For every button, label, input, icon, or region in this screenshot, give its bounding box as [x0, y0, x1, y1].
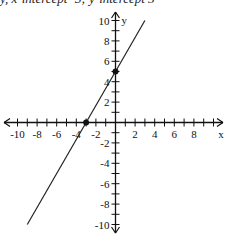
x-tick-label: 2	[132, 128, 138, 140]
y-tick-label: -2	[100, 137, 109, 149]
y-tick-label: -4	[100, 157, 110, 169]
y-axis-label: y	[122, 14, 128, 26]
x-tick-label: -10	[10, 128, 25, 140]
x-intercept-point	[83, 120, 89, 126]
y-tick-label: 6	[104, 55, 110, 67]
x-axis-label: x	[218, 128, 224, 140]
y-tick-label: -10	[95, 219, 110, 231]
y-tick-label: -8	[100, 198, 110, 210]
x-tick-label: 8	[191, 128, 197, 140]
y-intercept-point	[113, 69, 119, 75]
coordinate-plane: -10-8-6-4-22468108642-2-4-6-8-10xy	[0, 0, 236, 244]
x-tick-label: -8	[33, 128, 43, 140]
x-tick-label: -2	[91, 128, 100, 140]
y-tick-label: 8	[104, 35, 110, 47]
x-tick-label: -6	[52, 128, 62, 140]
y-tick-label: -6	[100, 178, 110, 190]
y-tick-label: 2	[104, 96, 110, 108]
x-tick-label: 6	[172, 128, 178, 140]
y-tick-label: 10	[99, 15, 111, 27]
x-tick-label: 4	[152, 128, 158, 140]
